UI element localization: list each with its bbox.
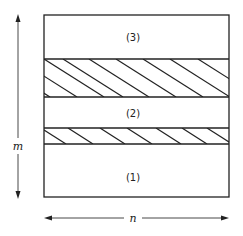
layered-diagram: (3) (2) (1) m n	[0, 0, 243, 236]
dimension-label-m: m	[13, 140, 23, 153]
hatched-band-upper	[0, 40, 243, 97]
region-2-label: (2)	[126, 108, 140, 119]
arrowhead-up-icon	[16, 14, 21, 22]
arrowhead-right-icon	[221, 216, 229, 221]
dimension-label-n: n	[129, 212, 136, 225]
vertical-dimension-arrow	[16, 14, 21, 199]
region-1-label: (1)	[126, 172, 140, 183]
arrowhead-down-icon	[16, 191, 21, 199]
arrowhead-left-icon	[44, 216, 52, 221]
region-3-label: (3)	[126, 32, 140, 43]
hatched-band-lower	[44, 128, 232, 144]
